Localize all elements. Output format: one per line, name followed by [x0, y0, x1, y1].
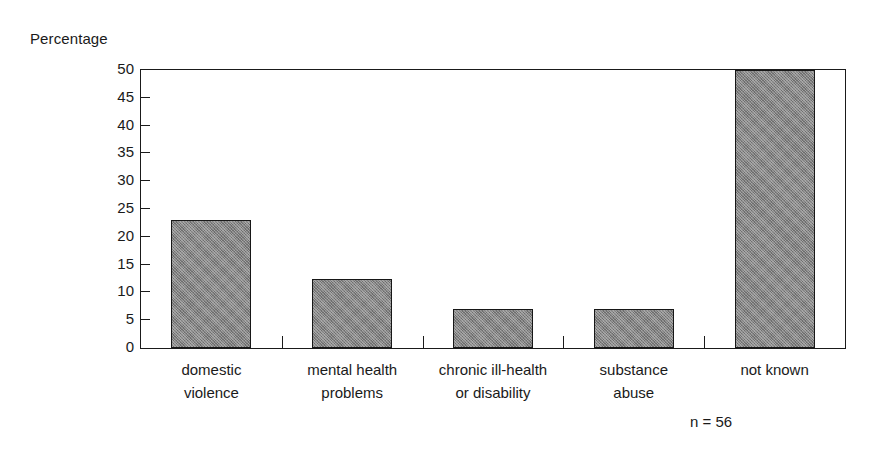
x-axis-tick-mark — [563, 336, 564, 349]
x-axis-tick-mark — [423, 336, 424, 349]
x-axis-category-label: substanceabuse — [555, 358, 712, 404]
x-axis-category-label-line: abuse — [555, 381, 712, 404]
x-axis-category-label: mental healthproblems — [274, 358, 431, 404]
x-axis-category-label: domesticviolence — [133, 358, 290, 404]
y-axis-title: Percentage — [30, 30, 108, 47]
x-axis-category-label-line: substance — [555, 358, 712, 381]
x-axis-tick-mark — [704, 336, 705, 349]
bar-chart: Percentage 05101520253035404550 domestic… — [0, 0, 880, 460]
y-axis-tick-label: 5 — [126, 309, 134, 329]
x-axis-category-label-line: chronic ill-health — [415, 358, 572, 381]
y-axis-tick-label: 35 — [117, 142, 134, 162]
x-axis-category-label-line: problems — [274, 381, 431, 404]
y-axis-tick-label: 15 — [117, 254, 134, 274]
x-axis-tick-marks — [141, 335, 845, 349]
y-axis-tick-label: 40 — [117, 115, 134, 135]
y-axis-tick-label: 25 — [117, 198, 134, 218]
x-axis-category-label: not known — [696, 358, 853, 381]
sample-size-annotation: n = 56 — [690, 413, 732, 430]
x-axis-category-label-line: mental health — [274, 358, 431, 381]
y-axis-tick-labels: 05101520253035404550 — [96, 59, 134, 359]
x-axis-tick-mark — [282, 336, 283, 349]
y-axis-tick-label: 50 — [117, 59, 134, 79]
y-axis-tick-label: 45 — [117, 87, 134, 107]
x-axis-category-label-line: not known — [696, 358, 853, 381]
bar — [171, 220, 251, 348]
y-axis-tick-label: 20 — [117, 226, 134, 246]
y-axis-tick-label: 10 — [117, 281, 134, 301]
y-axis-tick-label: 0 — [126, 337, 134, 357]
bar — [735, 70, 815, 348]
x-axis-category-label-line: or disability — [415, 381, 572, 404]
x-axis-category-label-line: violence — [133, 381, 290, 404]
x-axis-category-label: chronic ill-healthor disability — [415, 358, 572, 404]
y-axis-tick-label: 30 — [117, 170, 134, 190]
x-axis-category-labels: domesticviolencemental healthproblemschr… — [141, 358, 845, 414]
bar-series — [141, 70, 845, 348]
x-axis-category-label-line: domestic — [133, 358, 290, 381]
